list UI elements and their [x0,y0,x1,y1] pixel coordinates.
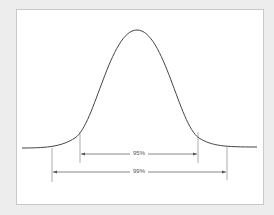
bell-curve [22,30,257,148]
interval-95-label: 95% [130,150,148,157]
interval-99-label: 99% [130,168,148,175]
normal-curve-diagram [0,0,274,215]
